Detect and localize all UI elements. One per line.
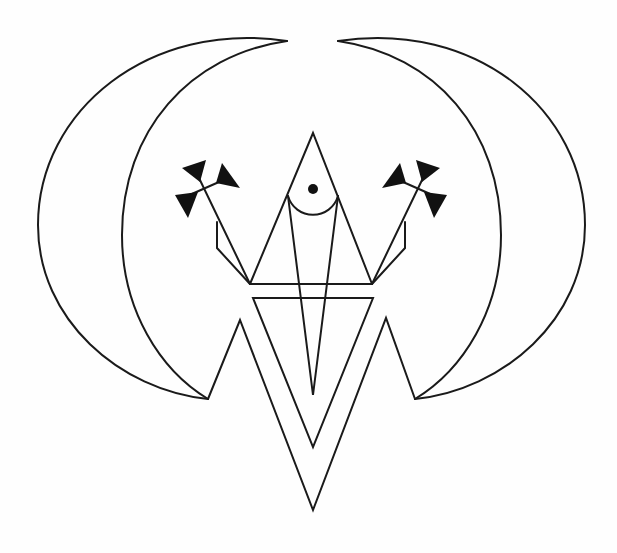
center-spike [288, 196, 338, 395]
sigil-drawing [0, 0, 617, 553]
sigil-canvas: Black line-art sigil: two mirrored cresc… [0, 0, 617, 553]
inverted-triangle [253, 298, 373, 447]
central-triangle [250, 133, 372, 284]
center-dot-icon [308, 184, 318, 194]
semicircle [288, 196, 338, 215]
right-arrow-cross [372, 160, 447, 284]
zigzag-w [208, 318, 415, 510]
left-arrow-cross [175, 160, 250, 284]
